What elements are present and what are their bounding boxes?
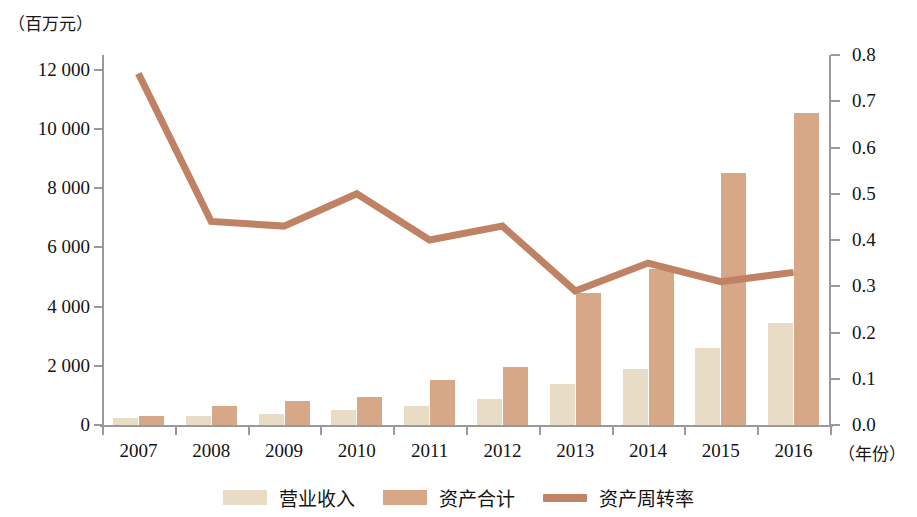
- bar-revenue: [113, 418, 138, 425]
- bar-assets: [212, 406, 237, 425]
- y-axis-right-tick-label: 0.7: [852, 90, 876, 112]
- x-axis-tick-label: 2010: [338, 440, 376, 462]
- bar-revenue: [331, 410, 356, 425]
- bar-assets: [139, 416, 164, 425]
- x-axis-tick-label: 2008: [192, 440, 230, 462]
- x-axis-tick-mark: [830, 426, 832, 435]
- y-axis-right-tick-label: 0.5: [852, 183, 876, 205]
- x-axis-tick-mark: [175, 426, 177, 435]
- bar-assets: [794, 113, 819, 425]
- y-axis-left-tick-label: 0: [81, 414, 91, 436]
- y-axis-right-tick-mark: [831, 54, 840, 56]
- x-axis-tick-label: 2015: [702, 440, 740, 462]
- y-axis-right-tick-mark: [831, 239, 840, 241]
- y-axis-left-tick-label: 10 000: [38, 118, 90, 140]
- plot-area: [102, 55, 830, 425]
- x-axis-tick-label: 2011: [411, 440, 448, 462]
- y-axis-unit-label: （百万元）: [8, 10, 93, 35]
- bar-assets: [503, 367, 528, 425]
- x-axis-tick-mark: [612, 426, 614, 435]
- y-axis-right-tick-label: 0.1: [852, 368, 876, 390]
- bar-revenue: [477, 399, 502, 425]
- x-axis-tick-label: 2016: [775, 440, 813, 462]
- y-axis-right-tick-mark: [831, 147, 840, 149]
- bar-assets: [357, 397, 382, 425]
- x-axis-tick-mark: [320, 426, 322, 435]
- x-axis-unit-label: （年份）: [838, 440, 906, 465]
- bar-assets: [430, 380, 455, 425]
- x-axis-tick-mark: [393, 426, 395, 435]
- legend-color-swatch: [383, 490, 427, 505]
- legend-revenue[interactable]: 营业收入: [223, 484, 355, 511]
- bar-assets: [576, 293, 601, 425]
- legend-label: 营业收入: [279, 484, 355, 511]
- y-axis-right-tick-label: 0.2: [852, 322, 876, 344]
- bar-assets: [721, 173, 746, 425]
- bar-revenue: [404, 406, 429, 425]
- y-axis-left-tick-label: 8 000: [47, 177, 90, 199]
- bars-layer: [102, 55, 830, 425]
- chart-container: （百万元） （年份） 02 0004 0006 0008 00010 00012…: [0, 0, 917, 517]
- x-axis-tick-mark: [248, 426, 250, 435]
- y-axis-right-tick-label: 0.6: [852, 137, 876, 159]
- x-axis-tick-mark: [684, 426, 686, 435]
- bar-assets: [649, 269, 674, 425]
- y-axis-left-tick-label: 12 000: [38, 59, 90, 81]
- bar-revenue: [550, 384, 575, 425]
- y-axis-right-tick-mark: [831, 285, 840, 287]
- legend-label: 资产周转率: [599, 484, 694, 511]
- y-axis-left-tick-label: 4 000: [47, 296, 90, 318]
- x-axis-tick-mark: [539, 426, 541, 435]
- legend-line-swatch: [543, 494, 587, 502]
- bar-revenue: [623, 369, 648, 425]
- x-axis-tick-mark: [466, 426, 468, 435]
- y-axis-right-tick-mark: [831, 378, 840, 380]
- y-axis-right-tick-label: 0.8: [852, 44, 876, 66]
- y-axis-right-tick-mark: [831, 332, 840, 334]
- x-axis-tick-label: 2012: [483, 440, 521, 462]
- bar-revenue: [259, 414, 284, 425]
- y-axis-right-tick-mark: [831, 100, 840, 102]
- x-axis-tick-label: 2009: [265, 440, 303, 462]
- y-axis-left-tick-label: 6 000: [47, 236, 90, 258]
- bar-revenue: [768, 323, 793, 425]
- y-axis-left-tick-label: 2 000: [47, 355, 90, 377]
- y-axis-right-tick-mark: [831, 193, 840, 195]
- x-axis-tick-label: 2007: [119, 440, 157, 462]
- y-axis-right-tick-label: 0.3: [852, 275, 876, 297]
- x-axis-tick-mark: [757, 426, 759, 435]
- legend-color-swatch: [223, 490, 267, 505]
- legend-assets[interactable]: 资产合计: [383, 484, 515, 511]
- x-axis-tick-mark: [102, 426, 104, 435]
- bar-revenue: [186, 416, 211, 425]
- bar-revenue: [695, 348, 720, 425]
- x-axis-tick-label: 2014: [629, 440, 667, 462]
- y-axis-right-tick-label: 0.4: [852, 229, 876, 251]
- bar-assets: [285, 401, 310, 425]
- y-axis-right-tick-label: 0.0: [852, 414, 876, 436]
- legend-turnover[interactable]: 资产周转率: [543, 484, 694, 511]
- chart-legend: 营业收入资产合计资产周转率: [0, 484, 917, 511]
- legend-label: 资产合计: [439, 484, 515, 511]
- x-axis-tick-label: 2013: [556, 440, 594, 462]
- x-axis-line: [100, 425, 833, 427]
